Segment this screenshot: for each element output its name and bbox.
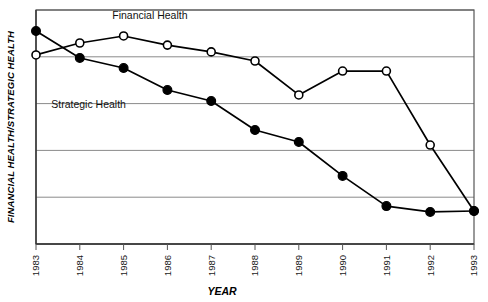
datapoint-strategic-health-1987 — [207, 97, 216, 106]
x-axis-title: YEAR — [207, 285, 237, 297]
datapoint-strategic-health-1986 — [163, 86, 172, 95]
x-tick-label-1985: 1985 — [118, 255, 129, 276]
datapoint-financial-health-1983 — [32, 51, 40, 59]
x-tick-label-1986: 1986 — [162, 255, 173, 276]
datapoint-financial-health-1985 — [120, 32, 128, 40]
line-chart: 1983198419851986198719881989199019911992… — [0, 0, 488, 302]
x-tick-label-1990: 1990 — [337, 255, 348, 276]
datapoint-financial-health-1990 — [339, 67, 347, 75]
x-tick-label-1988: 1988 — [249, 255, 260, 276]
datapoint-financial-health-1986 — [163, 41, 171, 49]
x-tick-label-1987: 1987 — [206, 255, 217, 276]
datapoint-financial-health-1989 — [295, 91, 303, 99]
x-tick-label-1984: 1984 — [74, 255, 85, 276]
datapoint-financial-health-1987 — [207, 48, 215, 56]
x-tick-label-1992: 1992 — [425, 255, 436, 276]
datapoint-strategic-health-1993 — [470, 207, 479, 216]
datapoint-financial-health-1991 — [382, 67, 390, 75]
x-tick-label-1983: 1983 — [30, 255, 41, 276]
datapoint-strategic-health-1990 — [338, 172, 347, 181]
datapoint-strategic-health-1989 — [294, 138, 303, 147]
datapoint-financial-health-1984 — [76, 39, 84, 47]
datapoint-financial-health-1992 — [426, 141, 434, 149]
strategic-health-label: Strategic Health — [51, 98, 126, 110]
financial-health-label: Financial Health — [112, 9, 187, 21]
chart-container: 1983198419851986198719881989199019911992… — [0, 0, 488, 302]
datapoint-strategic-health-1992 — [426, 208, 435, 217]
datapoint-strategic-health-1985 — [119, 64, 128, 73]
y-axis-title: FINANCIAL HEALTH/STRATEGIC HEALTH — [5, 30, 16, 223]
datapoint-strategic-health-1983 — [32, 27, 41, 36]
x-tick-label-1991: 1991 — [381, 255, 392, 276]
x-tick-label-1993: 1993 — [468, 255, 479, 276]
datapoint-strategic-health-1991 — [382, 202, 391, 211]
datapoint-strategic-health-1984 — [75, 54, 84, 63]
x-tick-label-1989: 1989 — [293, 255, 304, 276]
datapoint-strategic-health-1988 — [251, 126, 260, 135]
datapoint-financial-health-1988 — [251, 57, 259, 65]
